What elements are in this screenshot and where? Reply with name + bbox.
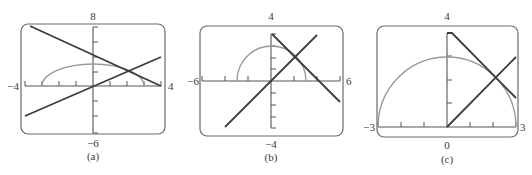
panel-b: 4 −4 −6 6 (b) bbox=[187, 10, 352, 164]
panel-c-y-ticks bbox=[447, 56, 452, 103]
panel-a-bottom-label: −6 bbox=[87, 137, 99, 149]
panel-a-right-label: 4 bbox=[168, 80, 174, 92]
panel-a-caption: (a) bbox=[87, 150, 100, 163]
panel-a-decreasing-line bbox=[30, 26, 161, 86]
panel-a-y-ticks bbox=[93, 27, 98, 133]
panel-b-bottom-label: −4 bbox=[265, 138, 277, 150]
panel-c-left-label: −3 bbox=[363, 121, 375, 133]
panel-a-left-label: −4 bbox=[7, 80, 19, 92]
panel-b-left-label: −6 bbox=[187, 75, 199, 87]
panel-b-right-label: 6 bbox=[346, 75, 352, 87]
panel-c-top-label: 4 bbox=[444, 10, 450, 22]
panel-c-caption: (c) bbox=[441, 153, 454, 166]
panel-c: 4 0 −3 3 (c) bbox=[363, 10, 526, 166]
panel-c-bottom-label: 0 bbox=[444, 139, 450, 151]
panel-b-caption: (b) bbox=[265, 151, 278, 164]
panel-c-increasing-line bbox=[447, 57, 516, 127]
figure: 8 −6 −4 4 (a) bbox=[0, 0, 532, 175]
panel-b-decreasing-line bbox=[272, 34, 340, 102]
panel-b-top-label: 4 bbox=[268, 10, 274, 22]
panel-a-top-label: 8 bbox=[90, 10, 96, 22]
panel-c-right-label: 3 bbox=[520, 121, 526, 133]
panel-a: 8 −6 −4 4 (a) bbox=[7, 10, 174, 163]
